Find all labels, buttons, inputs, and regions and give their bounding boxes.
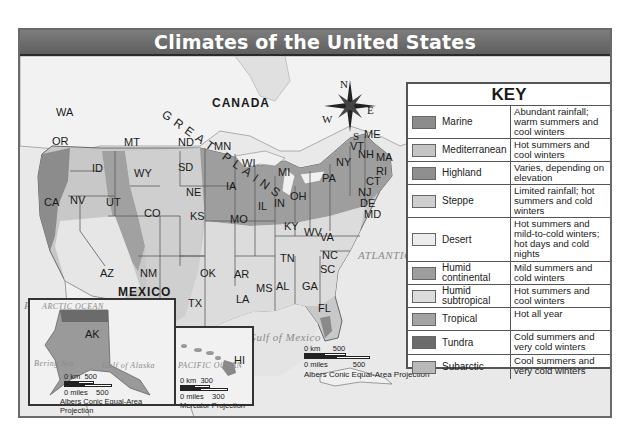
state-ne: NE bbox=[186, 186, 201, 198]
scale-mi-label: 0 miles bbox=[304, 360, 328, 369]
hawaii-inset: HI PACIFIC OCEAN 0 km 300 0 miles 300 Me… bbox=[174, 326, 254, 406]
state-ks: KS bbox=[190, 210, 205, 222]
state-ms: MS bbox=[256, 282, 273, 294]
label-gulf-of-alaska: Gulf of Alaska bbox=[102, 362, 132, 370]
state-nc: NC bbox=[322, 249, 338, 261]
key-name: Steppe bbox=[442, 196, 474, 206]
alaska-projection: Albers Conic Equal-Area Projection bbox=[60, 397, 174, 415]
state-fl: FL bbox=[318, 302, 331, 314]
swatch-highland bbox=[412, 167, 436, 180]
state-wa: WA bbox=[56, 106, 73, 118]
scale-mi-value: 500 bbox=[96, 388, 109, 397]
key-name: Marine bbox=[442, 117, 473, 127]
key-name: Tropical bbox=[442, 314, 477, 324]
state-id: ID bbox=[92, 162, 103, 174]
state-ny: NY bbox=[336, 156, 351, 168]
label-gulf-of-mexico: Gulf of Mexico bbox=[248, 332, 288, 343]
state-ar: AR bbox=[234, 268, 249, 280]
state-co: CO bbox=[144, 207, 161, 219]
state-ia: IA bbox=[226, 180, 236, 192]
key-row-highland: Highland Varies, depending on elevation bbox=[408, 162, 610, 185]
scale-km-label: 0 km bbox=[64, 372, 80, 381]
swatch-mediterranean bbox=[412, 144, 436, 157]
state-az: AZ bbox=[100, 267, 114, 279]
map-title: Climates of the United States bbox=[20, 30, 610, 56]
key-name: Humid subtropical bbox=[442, 286, 510, 306]
label-bering-sea: Bering Sea bbox=[34, 360, 56, 368]
state-ut: UT bbox=[106, 196, 121, 208]
key-desc: Hot summers and cool winters bbox=[511, 285, 610, 307]
key-row-humid-continental: Humid continental Mild summers and cold … bbox=[408, 262, 610, 285]
state-nd: ND bbox=[178, 136, 194, 148]
label-mexico: MEXICO bbox=[118, 285, 171, 299]
state-va: VA bbox=[320, 231, 334, 243]
key-desc: Limited rainfall; hot summers and cold w… bbox=[511, 185, 610, 217]
key-row-steppe: Steppe Limited rainfall; hot summers and… bbox=[408, 185, 610, 218]
key-name: Humid continental bbox=[442, 263, 510, 283]
swatch-tundra bbox=[412, 336, 436, 349]
key-row-subarctic: Subarctic Cool summers and very cold win… bbox=[408, 355, 610, 379]
key-desc: Mild summers and cold winters bbox=[511, 262, 610, 284]
alaska-inset: AK ARCTIC OCEAN Bering Sea Gulf of Alask… bbox=[28, 298, 176, 406]
label-arctic-ocean: ARCTIC OCEAN bbox=[42, 303, 104, 311]
state-wi: WI bbox=[242, 157, 255, 169]
key-name: Tundra bbox=[442, 338, 473, 348]
key-desc: Abundant rainfall; warm summers and cool… bbox=[511, 106, 610, 138]
label-canada: CANADA bbox=[212, 96, 270, 110]
state-oh: OH bbox=[290, 190, 307, 202]
state-ok: OK bbox=[200, 267, 216, 279]
state-mt: MT bbox=[124, 136, 140, 148]
key-name: Desert bbox=[442, 235, 471, 245]
hawaii-projection: Mercator Projection bbox=[180, 401, 245, 410]
compass-e: E bbox=[367, 104, 374, 116]
scale-km-value: 500 bbox=[333, 344, 346, 353]
scale-mi-value: 500 bbox=[353, 360, 366, 369]
state-wv: WV bbox=[304, 226, 322, 238]
compass-n: N bbox=[340, 78, 348, 90]
alaska-scale: 0 km 500 0 miles 500 Albers Conic Equal-… bbox=[64, 372, 174, 415]
key-row-mediterranean: Mediterranean Hot summers and cool winte… bbox=[408, 139, 610, 162]
compass-w: W bbox=[322, 113, 332, 125]
state-al: AL bbox=[276, 280, 289, 292]
climate-key: KEY Marine Abundant rainfall; warm summe… bbox=[406, 82, 612, 369]
state-nv: NV bbox=[70, 194, 85, 206]
key-name: Mediterranean bbox=[442, 145, 506, 155]
state-nm: NM bbox=[140, 267, 157, 279]
state-md: MD bbox=[364, 208, 381, 220]
label-atlantic-ocean: ATLANTIC OCEAN bbox=[358, 250, 408, 261]
state-wy: WY bbox=[134, 167, 152, 179]
scale-mi-label: 0 miles bbox=[180, 392, 204, 401]
key-row-tundra: Tundra Cold summers and very cold winter… bbox=[408, 331, 610, 355]
key-desc: Hot summers and mild-to-cold winters; ho… bbox=[511, 218, 610, 261]
key-desc: Hot summers and cool winters bbox=[511, 139, 610, 161]
key-row-desert: Desert Hot summers and mild-to-cold wint… bbox=[408, 218, 610, 262]
swatch-humid-continental bbox=[412, 267, 436, 280]
hawaii-scale: 0 km 300 0 miles 300 Mercator Projection bbox=[180, 376, 245, 410]
swatch-steppe bbox=[412, 195, 436, 208]
key-name: Highland bbox=[442, 168, 481, 178]
key-row-humid-subtropical: Humid subtropical Hot summers and cool w… bbox=[408, 285, 610, 308]
scale-km-label: 0 km bbox=[180, 376, 196, 385]
key-desc: Hot all year bbox=[511, 308, 610, 330]
key-desc: Varies, depending on elevation bbox=[511, 162, 610, 184]
state-ma: MA bbox=[376, 151, 393, 163]
key-name: Subarctic bbox=[442, 362, 484, 372]
state-il: IL bbox=[258, 200, 267, 212]
state-tx: TX bbox=[188, 297, 202, 309]
state-mi: MI bbox=[278, 166, 290, 178]
state-in: IN bbox=[274, 197, 285, 209]
state-sc: SC bbox=[320, 263, 335, 275]
key-title: KEY bbox=[408, 84, 610, 106]
swatch-desert bbox=[412, 233, 436, 246]
label-pacific-ocean-hawaii: PACIFIC OCEAN bbox=[178, 362, 218, 370]
state-mn: MN bbox=[214, 140, 231, 152]
state-tn: TN bbox=[280, 252, 295, 264]
key-desc: Cool summers and very cold winters bbox=[511, 355, 610, 379]
state-me: ME bbox=[364, 128, 381, 140]
map-frame: Climates of the United States bbox=[18, 28, 612, 418]
scale-mi-value: 300 bbox=[212, 392, 225, 401]
state-ky: KY bbox=[284, 220, 299, 232]
state-sd: SD bbox=[178, 161, 193, 173]
state-nh: NH bbox=[358, 148, 374, 160]
key-desc: Cold summers and very cold winters bbox=[511, 331, 610, 354]
